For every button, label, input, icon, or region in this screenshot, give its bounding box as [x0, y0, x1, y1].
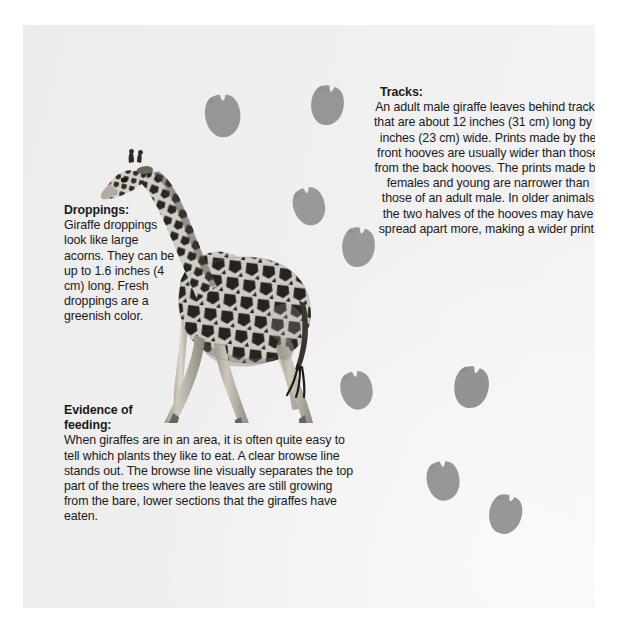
hoof-print-icon: [421, 455, 465, 507]
droppings-text-block: Droppings: Giraffe droppings look like l…: [64, 203, 176, 325]
feeding-heading: Evidence of feeding:: [64, 403, 156, 433]
tracks-text-block: Tracks: An adult male giraffe leaves beh…: [372, 85, 595, 237]
tracks-body: An adult male giraffe leaves behind trac…: [372, 100, 595, 237]
hoof-print-icon: [449, 363, 494, 413]
hoof-print-icon: [483, 489, 529, 541]
hoof-print-shape: [307, 82, 348, 129]
page-root: Droppings: Giraffe droppings look like l…: [0, 0, 617, 631]
hoof-print-icon: [307, 82, 348, 129]
content-panel: Droppings: Giraffe droppings look like l…: [23, 25, 595, 608]
tracks-heading: Tracks:: [372, 85, 595, 100]
hoof-print-shape: [483, 489, 529, 541]
feeding-body: When giraffes are in an area, it is ofte…: [64, 433, 354, 524]
hoof-print-shape: [421, 455, 465, 507]
feeding-text-block: Evidence of feeding: When giraffes are i…: [64, 403, 354, 525]
hoof-print-shape: [449, 363, 494, 413]
droppings-body: Giraffe droppings look like large acorns…: [64, 218, 176, 324]
droppings-heading: Droppings:: [64, 203, 176, 218]
